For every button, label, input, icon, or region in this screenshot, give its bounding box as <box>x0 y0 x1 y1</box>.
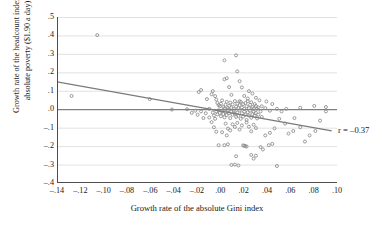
correlation-annotation: r = –0.37 <box>338 125 369 135</box>
data-point <box>231 123 234 126</box>
data-point <box>250 130 253 133</box>
data-point <box>280 110 283 113</box>
data-point <box>264 134 267 137</box>
data-point <box>238 80 241 83</box>
data-point <box>225 100 228 103</box>
x-axis-title: Growth rate of the absolute Gini index <box>57 203 337 213</box>
data-point <box>299 106 302 109</box>
data-point <box>236 121 239 124</box>
data-point <box>237 164 240 167</box>
data-point <box>254 154 257 157</box>
data-point <box>219 102 222 105</box>
data-point <box>226 143 229 146</box>
y-tick-label: .1 <box>28 86 54 95</box>
data-point <box>221 99 224 102</box>
y-tick-label: –.1 <box>28 123 54 132</box>
data-point <box>212 114 215 117</box>
scatter-plot-figure: Growth rate of the headcount index of ab… <box>0 0 382 228</box>
data-point <box>210 121 213 124</box>
data-point <box>214 95 217 98</box>
data-point <box>205 98 208 101</box>
data-point <box>265 100 268 103</box>
y-tick-label: –.2 <box>28 141 54 150</box>
data-point <box>319 119 322 122</box>
trendline <box>57 82 332 131</box>
y-tick-label: .3 <box>28 49 54 58</box>
data-point <box>231 103 234 106</box>
data-point <box>221 131 224 134</box>
y-tick-label: .4 <box>28 30 54 39</box>
y-tick-label: .5 <box>28 12 54 21</box>
data-point <box>303 140 306 143</box>
data-point <box>70 94 73 97</box>
data-point <box>230 93 233 96</box>
data-point <box>240 86 243 89</box>
data-point <box>215 98 218 101</box>
data-point <box>324 110 327 113</box>
data-point <box>240 124 243 127</box>
data-point <box>233 163 236 166</box>
data-point <box>243 94 246 97</box>
data-point <box>214 117 217 120</box>
data-point <box>257 113 260 116</box>
x-tick-label: .10 <box>317 186 357 195</box>
data-point <box>229 129 232 132</box>
y-tick-label: –.3 <box>28 160 54 169</box>
data-point <box>271 142 274 145</box>
plot-area <box>57 17 337 183</box>
data-point <box>292 129 295 132</box>
data-point <box>204 112 207 115</box>
data-point <box>202 117 205 120</box>
data-point <box>190 111 193 114</box>
data-point <box>314 129 317 132</box>
data-point <box>308 134 311 137</box>
data-point <box>225 134 228 137</box>
data-point <box>287 132 290 135</box>
data-point <box>200 110 203 113</box>
data-point <box>215 130 218 133</box>
data-point <box>233 100 236 103</box>
data-point <box>252 157 255 160</box>
plot-canvas <box>57 17 337 183</box>
data-point <box>324 106 327 109</box>
data-point <box>258 99 261 102</box>
data-point <box>250 101 253 104</box>
data-point <box>252 123 255 126</box>
data-point <box>250 153 253 156</box>
data-point <box>278 117 281 120</box>
data-point <box>261 148 264 151</box>
data-point <box>224 122 227 125</box>
y-tick-label: .2 <box>28 67 54 76</box>
data-point <box>260 105 263 108</box>
data-point <box>259 110 262 113</box>
data-point <box>254 96 257 99</box>
data-point <box>210 93 213 96</box>
data-point <box>208 116 211 119</box>
y-tick-label: .0 <box>28 104 54 113</box>
data-point <box>229 117 232 120</box>
data-point <box>196 113 199 116</box>
data-point <box>268 131 271 134</box>
data-point <box>251 92 254 95</box>
data-point <box>271 103 274 106</box>
data-point <box>293 117 296 120</box>
data-point <box>228 86 231 89</box>
data-point <box>223 59 226 62</box>
data-point <box>313 104 316 107</box>
data-point <box>235 155 238 158</box>
